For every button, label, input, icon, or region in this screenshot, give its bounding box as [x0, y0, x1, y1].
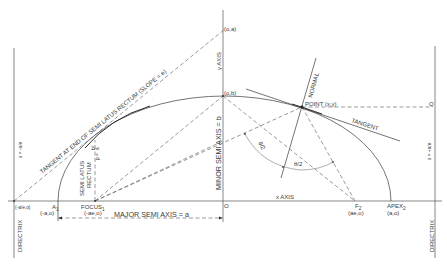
label-focus1-coord: (-ae,o)	[84, 210, 102, 216]
label-left-dir-eq: x = -a/e	[18, 142, 23, 158]
label-semi-latus: SEMI LATUS	[79, 161, 85, 196]
arrow-right-icon	[219, 217, 223, 220]
latus-tangent-line	[14, 29, 225, 201]
label-q: Q	[429, 101, 434, 107]
focus1-to-point-line	[95, 107, 302, 201]
label-major-semi-axis: MAJOR SEMI AXIS = a	[114, 210, 189, 219]
ellipse-curve	[58, 96, 391, 201]
label-x-axis: x AXIS	[276, 194, 294, 200]
label-a1-coord: (-a,o)	[40, 210, 54, 216]
label-minor-semi-axis: MINOR SEMI AXIS = b	[214, 116, 223, 190]
label-normal: NORMAL	[307, 71, 320, 98]
label-oa: (o,a)	[224, 26, 236, 32]
ob-to-f2-line	[223, 96, 355, 201]
label-p-eq: p =	[95, 153, 100, 160]
point-xy-marker	[301, 106, 304, 109]
tangent-line	[246, 89, 400, 141]
label-directrix-left: DIRECTRIX	[17, 220, 23, 252]
label-theta-2: θ/2	[294, 161, 303, 167]
label-latus-tangent: TANGENT AT END OF SEMI LATUS RECTUM (SLO…	[39, 68, 168, 174]
label-left-dir-coord: (-a/e,o)	[15, 205, 31, 210]
angle-arc	[245, 134, 333, 170]
normal-line	[281, 58, 316, 178]
focus1-to-minor-line	[95, 141, 223, 201]
label-point-xy: POINT (x,y)	[305, 101, 337, 107]
label-apex2-coord: (a,o)	[387, 210, 399, 216]
label-directrix-right: DIRECTRIX	[429, 220, 435, 252]
point-to-f2-line	[302, 107, 355, 201]
label-origin: O	[224, 203, 229, 209]
label-right-dir-eq: x = +a/e	[427, 142, 432, 160]
label-y-axis: y AXIS	[216, 52, 222, 70]
label-over-a: a	[95, 147, 100, 150]
ellipse-diagram: (o,a) y AXIS (o,b) MINOR SEMI AXIS = b O…	[0, 0, 447, 268]
label-theta-1: θ/2	[257, 141, 267, 152]
label-f2-coord: (ae,o)	[348, 210, 364, 216]
label-rectum: RECTUM	[86, 162, 92, 188]
label-ob: (o,b)	[224, 90, 236, 96]
arrow-left-icon	[58, 217, 62, 220]
